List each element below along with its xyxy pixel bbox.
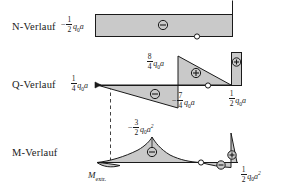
annotation-q-mid-unit: q0a [184, 99, 195, 109]
annotation-n-left: − 1 2 q0a [61, 16, 84, 33]
annotation-n-left-fraction: 1 2 [66, 16, 72, 33]
n-verlauf-diagram [96, 1, 233, 40]
annotation-m-extremum: Mextr. [88, 170, 106, 182]
q-left-sign-minus-icon [150, 89, 159, 98]
annotation-q-right-fraction: 1 2 [229, 90, 235, 107]
annotation-q-top-numerator: 8 [147, 53, 153, 61]
annotation-m-top-numerator: 3 [133, 119, 139, 127]
m-verlauf-diagram [97, 133, 238, 168]
annotation-q-top-unit: q0a [153, 60, 164, 70]
row-label-m-verlauf: M-Verlauf [12, 147, 58, 158]
m-extremum-lens-area [97, 163, 120, 167]
row-label-q-verlauf: Q-Verlauf [12, 79, 56, 90]
annotation-q-left-fraction: 1 4 [71, 75, 77, 92]
m-zero-crossing-marker [198, 160, 203, 165]
annotation-m-right-unit: q0a2 [247, 171, 261, 183]
m-main-sign-minus-icon [147, 147, 156, 156]
q-right-sign-plus-icon [232, 58, 240, 66]
annotation-q-mid-sign: − [172, 96, 177, 105]
q-middle-positive-triangle [178, 56, 231, 85]
annotation-q-right-numerator: 1 [229, 90, 235, 98]
n-hinge-marker [194, 34, 199, 39]
annotation-q-right: 1 2 q0a [228, 90, 246, 107]
annotation-m-right: 1 2 q0a2 [240, 166, 261, 183]
annotation-q-mid-denominator: 4 [177, 102, 183, 110]
annotation-q-mid-fraction: 7 4 [177, 92, 183, 109]
annotation-m-top-unit: q0a2 [140, 124, 154, 136]
annotation-q-left-numerator: 1 [71, 75, 77, 83]
annotation-q-mid-numerator: 7 [177, 92, 183, 100]
annotation-m-extremum-sub: extr. [96, 176, 107, 182]
annotation-n-left-unit: q0a [73, 23, 84, 33]
annotation-q-top: 8 4 q0a [146, 53, 164, 70]
annotation-n-left-denominator: 2 [66, 26, 72, 34]
annotation-m-top-sign: − [128, 123, 133, 132]
annotation-q-mid: − 7 4 q0a [172, 92, 195, 109]
q-zero-crossing-marker [205, 83, 210, 88]
q-middle-sign-plus-icon [191, 68, 200, 77]
figure-canvas: N-Verlauf Q-Verlauf M-Verlauf − 1 2 q0a … [0, 0, 287, 196]
annotation-m-top-denominator: 2 [133, 129, 139, 137]
m-spike-sign-plus-icon [228, 151, 236, 159]
annotation-m-extremum-base: M [88, 170, 96, 180]
m-small-sign-minus-icon [217, 161, 225, 169]
annotation-m-right-fraction: 1 2 [241, 166, 247, 183]
annotation-m-right-numerator: 1 [241, 166, 247, 174]
q-left-end-cap [95, 82, 101, 88]
annotation-m-top: − 3 2 q0a2 [128, 119, 154, 136]
annotation-q-right-unit: q0a [235, 97, 246, 107]
row-label-n-verlauf: N-Verlauf [12, 21, 56, 32]
m-right-small-negative-area [201, 163, 231, 168]
q-verlauf-diagram [95, 53, 242, 163]
annotation-m-top-fraction: 3 2 [133, 119, 139, 136]
annotation-n-left-numerator: 1 [66, 16, 72, 24]
annotation-q-right-denominator: 2 [229, 100, 235, 108]
annotation-q-left: 1 4 q0a [70, 75, 88, 92]
q-left-negative-triangle [97, 85, 178, 108]
annotation-n-left-sign: − [61, 20, 66, 29]
annotation-q-top-fraction: 8 4 [147, 53, 153, 70]
annotation-q-left-denominator: 4 [71, 85, 77, 93]
annotation-q-top-denominator: 4 [147, 63, 153, 71]
n-sign-minus-icon [158, 20, 167, 29]
annotation-m-right-denominator: 2 [241, 176, 247, 184]
annotation-q-left-unit: q0a [77, 82, 88, 92]
